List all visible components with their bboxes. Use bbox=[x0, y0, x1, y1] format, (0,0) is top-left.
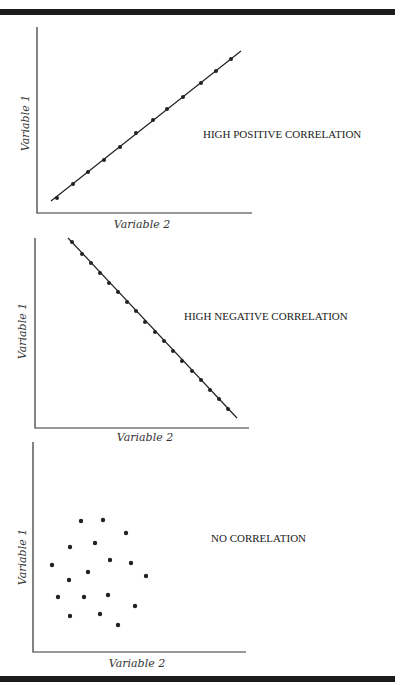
data-point bbox=[98, 612, 102, 616]
y-axis-label: Variable 1 bbox=[16, 303, 29, 359]
data-point bbox=[55, 196, 59, 200]
x-axis-label: Variable 2 bbox=[114, 218, 170, 231]
y-axis-label: Variable 1 bbox=[19, 95, 32, 151]
data-point bbox=[151, 118, 155, 122]
data-point bbox=[79, 519, 83, 523]
data-point bbox=[180, 359, 184, 363]
data-point bbox=[68, 614, 72, 618]
data-point bbox=[226, 407, 230, 411]
data-point bbox=[108, 558, 112, 562]
data-point bbox=[67, 578, 71, 582]
data-point bbox=[162, 339, 166, 343]
panel-negative: Variable 1 Variable 2 HIGH NEGATIVE CORR… bbox=[16, 238, 348, 444]
data-point bbox=[107, 281, 111, 285]
data-point bbox=[102, 158, 106, 162]
data-point bbox=[190, 369, 194, 373]
data-point bbox=[101, 518, 105, 522]
data-point bbox=[80, 252, 84, 256]
x-axis-label: Variable 2 bbox=[117, 431, 173, 444]
axes bbox=[35, 238, 249, 428]
data-point bbox=[68, 545, 72, 549]
data-point bbox=[129, 561, 133, 565]
data-point bbox=[208, 388, 212, 392]
data-point bbox=[116, 623, 120, 627]
x-axis-label: Variable 2 bbox=[109, 657, 165, 670]
data-point bbox=[56, 595, 60, 599]
data-point bbox=[86, 170, 90, 174]
data-point bbox=[229, 57, 233, 61]
panel-positive: Variable 1 Variable 2 HIGH POSITIVE CORR… bbox=[19, 27, 361, 231]
data-point bbox=[71, 182, 75, 186]
data-point bbox=[98, 271, 102, 275]
panel-title: NO CORRELATION bbox=[211, 532, 306, 544]
data-point bbox=[199, 81, 203, 85]
data-point bbox=[153, 330, 157, 334]
data-point bbox=[181, 95, 185, 99]
y-axis-label: Variable 1 bbox=[16, 529, 29, 585]
axes bbox=[33, 442, 246, 652]
data-point bbox=[144, 574, 148, 578]
data-point bbox=[116, 290, 120, 294]
data-point bbox=[124, 531, 128, 535]
data-point bbox=[86, 570, 90, 574]
data-point bbox=[143, 320, 147, 324]
data-point bbox=[118, 145, 122, 149]
data-point bbox=[70, 240, 74, 244]
panel-no-correlation: Variable 1 Variable 2 NO CORRELATION bbox=[16, 442, 306, 670]
data-point bbox=[82, 595, 86, 599]
correlation-figure: Variable 1 Variable 2 HIGH POSITIVE CORR… bbox=[0, 0, 403, 685]
data-point bbox=[134, 131, 138, 135]
data-point bbox=[171, 349, 175, 353]
data-point bbox=[93, 541, 97, 545]
data-point bbox=[125, 300, 129, 304]
data-point bbox=[89, 261, 93, 265]
trend-line bbox=[51, 51, 241, 201]
data-point bbox=[165, 107, 169, 111]
panel-title: HIGH POSITIVE CORRELATION bbox=[203, 128, 361, 140]
data-point bbox=[50, 563, 54, 567]
panel-title: HIGH NEGATIVE CORRELATION bbox=[184, 310, 348, 322]
axes bbox=[37, 27, 252, 213]
data-point bbox=[214, 69, 218, 73]
data-point bbox=[134, 309, 138, 313]
data-points bbox=[50, 518, 148, 627]
data-point bbox=[217, 397, 221, 401]
data-point bbox=[199, 378, 203, 382]
data-point bbox=[133, 604, 137, 608]
data-point bbox=[106, 593, 110, 597]
